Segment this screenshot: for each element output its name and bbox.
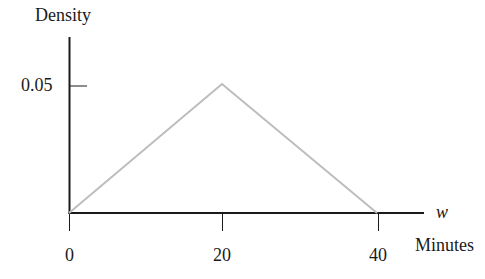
x-tick-label-20: 20 [213,245,231,266]
x-tick-label-0: 0 [65,245,74,266]
y-axis-label: Density [35,5,91,26]
x-axis-label: Minutes [415,235,474,256]
y-tick-label: 0.05 [21,75,53,96]
x-tick-label-40: 40 [369,245,387,266]
x-variable-label: w [436,202,448,223]
density-chart [0,0,485,279]
density-line [69,84,377,213]
